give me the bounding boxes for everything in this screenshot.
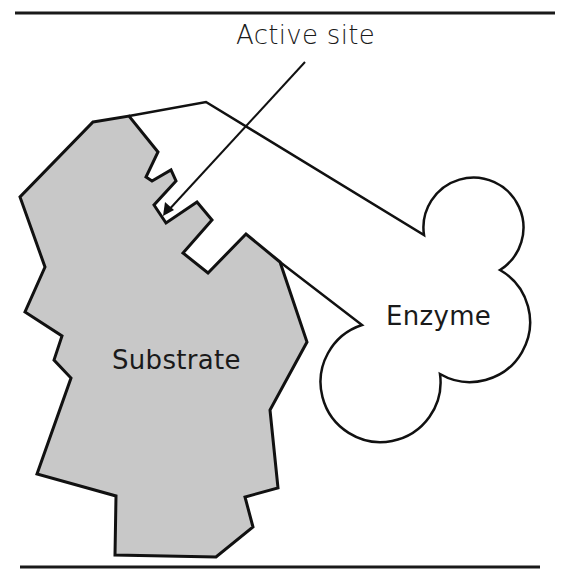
substrate-label: Substrate bbox=[112, 347, 241, 373]
active-site-arrow-line bbox=[166, 62, 305, 213]
enzyme-substrate-diagram: Active site Enzyme Substrate bbox=[0, 0, 567, 581]
substrate-shape bbox=[20, 116, 307, 557]
active-site-label: Active site bbox=[236, 22, 375, 48]
enzyme-label: Enzyme bbox=[386, 303, 491, 329]
arrowhead-icon bbox=[163, 202, 174, 216]
